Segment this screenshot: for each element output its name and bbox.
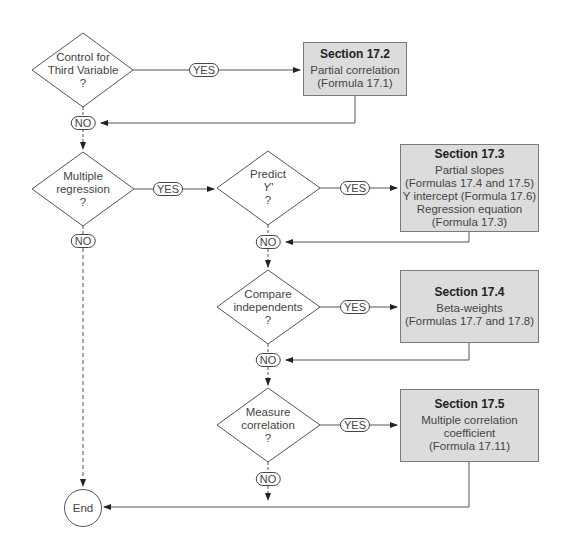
section-line: Partial slopes <box>435 164 504 177</box>
decision-line: Multiple <box>33 170 133 183</box>
yes-label-multiple-regression: YES <box>153 182 183 196</box>
decision-line: Control for <box>33 51 133 64</box>
section-title: Section 17.5 <box>434 398 504 411</box>
section-box-17-4: Section 17.4 Beta-weights (Formulas 17.7… <box>400 270 539 343</box>
decision-line: Measure <box>218 406 318 419</box>
section-line: Beta-weights <box>436 302 502 315</box>
decision-third-variable: Control for Third Variable ? <box>33 51 133 90</box>
no-label-compare: NO <box>256 353 281 367</box>
section-line: Regression equation <box>417 203 523 216</box>
decision-line: Predict <box>218 168 318 181</box>
section-line: Y intercept (Formula 17.6) <box>403 190 536 203</box>
decision-line: regression <box>33 183 133 196</box>
decision-line: correlation <box>218 419 318 432</box>
no-label-multiple-regression: NO <box>71 234 96 248</box>
decision-line: Y' <box>218 181 318 194</box>
yes-label-compare: YES <box>340 300 370 314</box>
decision-line: ? <box>218 432 318 445</box>
section-line: (Formula 17.3) <box>432 216 507 229</box>
section-box-17-5: Section 17.5 Multiple correlation coeffi… <box>400 389 539 462</box>
section-line: (Formulas 17.4 and 17.5) <box>405 177 534 190</box>
section-line: coefficient <box>444 427 496 440</box>
decision-predict: Predict Y' ? <box>218 168 318 207</box>
section-line: (Formula 17.11) <box>429 440 510 453</box>
no-label-predict: NO <box>256 235 281 249</box>
decision-measure: Measure correlation ? <box>218 406 318 445</box>
decision-line: independents <box>218 301 318 314</box>
end-label: End <box>73 502 93 514</box>
section-box-17-2: Section 17.2 Partial correlation (Formul… <box>303 42 407 96</box>
section-line: (Formulas 17.7 and 17.8) <box>405 315 534 328</box>
decision-compare: Compare independents ? <box>218 288 318 327</box>
decision-line: Third Variable <box>33 64 133 77</box>
section-box-17-3: Section 17.3 Partial slopes (Formulas 17… <box>400 144 539 232</box>
section-line: (Formula 17.1) <box>317 77 392 90</box>
yes-label-predict: YES <box>340 181 370 195</box>
section-line: Multiple correlation <box>421 414 518 427</box>
section-title: Section 17.3 <box>434 148 504 161</box>
no-label-measure: NO <box>256 472 281 486</box>
decision-line: ? <box>33 196 133 209</box>
decision-line: Compare <box>218 288 318 301</box>
decision-line: ? <box>33 77 133 90</box>
decision-multiple-regression: Multiple regression ? <box>33 170 133 209</box>
end-node: End <box>64 489 102 527</box>
decision-line: ? <box>218 314 318 327</box>
section-title: Section 17.4 <box>434 286 504 299</box>
section-title: Section 17.2 <box>320 48 390 61</box>
section-line: Partial correlation <box>310 64 399 77</box>
yes-label-measure: YES <box>340 418 370 432</box>
decision-line: ? <box>218 194 318 207</box>
yes-label-third-variable: YES <box>189 63 219 77</box>
no-label-third-variable: NO <box>71 116 96 130</box>
